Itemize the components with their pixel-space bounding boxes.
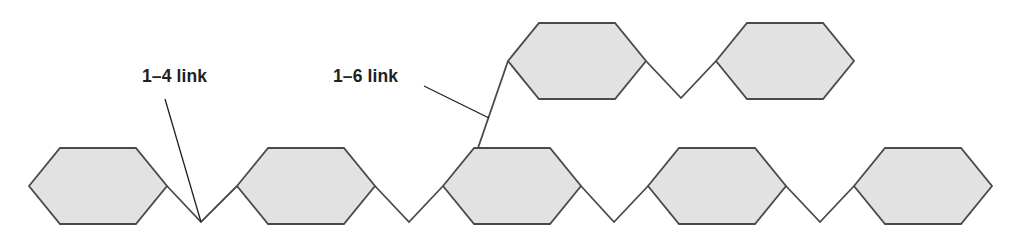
- callout-label-link-1-6: 1–6 link: [333, 66, 398, 86]
- sugar-ring-hexagon: [237, 148, 375, 224]
- glycosidic-bond-1-4: [581, 186, 648, 222]
- glycosidic-bond-1-4: [167, 186, 237, 222]
- sugar-ring-hexagon: [508, 23, 646, 99]
- glycosidic-bond-1-4: [786, 186, 854, 222]
- callout-labels-group: 1–4 link1–6 link: [142, 66, 398, 86]
- diagram-canvas: 1–4 link1–6 link: [0, 0, 1031, 242]
- glycosidic-bond-1-4: [375, 186, 443, 222]
- callout-label-link-1-4: 1–4 link: [142, 66, 207, 86]
- glycosidic-bond-1-4: [646, 61, 716, 98]
- sugar-ring-hexagon: [443, 148, 581, 224]
- glycosidic-bond-1-6: [478, 61, 508, 148]
- leader-line-link-1-6: [424, 86, 489, 118]
- sugar-ring-hexagon: [648, 148, 786, 224]
- sugar-ring-hexagon: [716, 23, 854, 99]
- polysaccharide-diagram: 1–4 link1–6 link: [0, 0, 1031, 242]
- sugar-ring-hexagon: [29, 148, 167, 224]
- sugar-ring-hexagon: [854, 148, 992, 224]
